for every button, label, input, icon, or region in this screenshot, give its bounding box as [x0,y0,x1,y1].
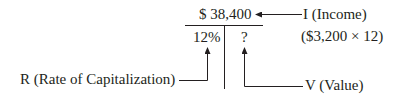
income-calculation: ($3,200 × 12) [301,29,383,44]
value-unknown: ? [241,30,248,45]
rate-arrow [179,48,208,81]
rate-label: R (Rate of Capitalization) [20,72,175,87]
income-label: I (Income) [303,7,367,22]
income-value: $ 38,400 [199,7,252,22]
value-arrow [245,48,304,87]
rate-value: 12% [193,30,221,45]
value-label: V (Value) [305,78,363,93]
